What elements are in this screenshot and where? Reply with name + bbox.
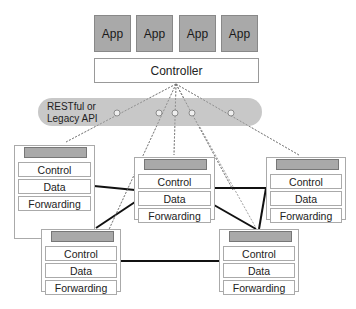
switch-top-left: Control Data Forwarding	[14, 145, 95, 239]
switch-header-bar	[51, 231, 114, 242]
forwarding-layer: Forwarding	[270, 208, 342, 223]
forwarding-layer: Forwarding	[45, 280, 117, 295]
switch-center: Control Data Forwarding	[134, 157, 215, 220]
forwarding-layer: Forwarding	[223, 280, 295, 295]
data-layer: Data	[18, 179, 91, 194]
switch-right: Control Data Forwarding	[266, 157, 346, 220]
control-layer: Control	[223, 246, 295, 261]
data-layer: Data	[223, 263, 295, 278]
data-layer: Data	[138, 191, 211, 206]
control-layer: Control	[138, 174, 211, 189]
forwarding-layer: Forwarding	[138, 208, 211, 223]
data-layer: Data	[45, 263, 117, 278]
switch-header-bar	[276, 159, 339, 170]
switch-bottom-right: Control Data Forwarding	[219, 229, 299, 292]
switch-header-bar	[24, 147, 87, 158]
switch-bottom-left: Control Data Forwarding	[41, 229, 121, 292]
control-layer: Control	[45, 246, 117, 261]
switch-header-bar	[229, 231, 292, 242]
switch-header-bar	[144, 159, 207, 170]
forwarding-layer: Forwarding	[18, 196, 91, 211]
control-layer: Control	[18, 162, 91, 177]
data-layer: Data	[270, 191, 342, 206]
control-layer: Control	[270, 174, 342, 189]
